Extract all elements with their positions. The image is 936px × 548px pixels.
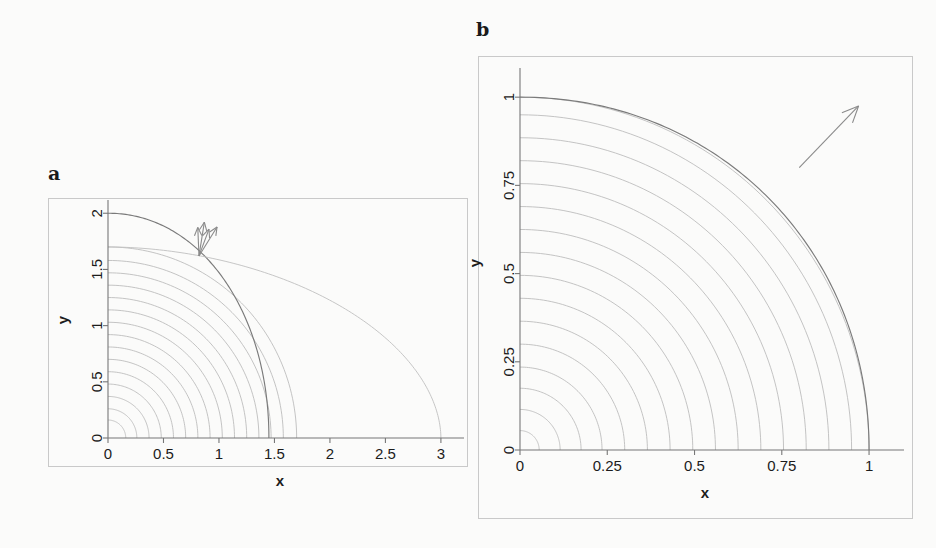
panel-b-axes [515, 68, 904, 455]
panel-a-plot: 00.511.522.5300.511.52 x y [46, 160, 470, 512]
contour-line [520, 298, 670, 450]
y-tick-label: 1.5 [88, 259, 105, 280]
contour-line [520, 207, 761, 450]
contour-line [108, 384, 161, 438]
arrow-head [194, 227, 197, 235]
contour-line [520, 388, 581, 450]
contour-line [108, 420, 126, 438]
arrow-shaft [799, 106, 858, 168]
contour-line [108, 322, 222, 438]
panel-b-frame [479, 57, 913, 519]
constraint-curve [108, 247, 441, 438]
arrow-shaft [198, 227, 199, 256]
contour-line [520, 344, 625, 450]
panel-b: b 00.250.50.75100.250.50.751 x y [470, 18, 918, 526]
panel-a-x-axis-title: x [276, 472, 285, 489]
x-tick-label: 0 [516, 457, 524, 474]
arrow-head [209, 229, 210, 238]
figure-root: a 00.511.522.5300.511.52 x y b 00.250.50… [0, 0, 936, 548]
panel-b-tick-labels: 00.250.50.75100.250.50.751 [500, 93, 873, 474]
x-tick-label: 0.5 [153, 445, 174, 462]
contour-line [520, 431, 539, 450]
contour-line [108, 372, 173, 438]
panel-a-contours [108, 247, 297, 438]
y-tick-label: 0.5 [88, 371, 105, 392]
y-tick-label: 1 [500, 93, 517, 101]
x-tick-label: 2.5 [375, 445, 396, 462]
contour-line [520, 321, 647, 450]
x-tick-label: 1 [215, 445, 223, 462]
x-tick-label: 1 [865, 457, 873, 474]
contour-line [108, 409, 137, 438]
contour-line [108, 298, 247, 438]
panel-a-axes [103, 200, 464, 443]
panel-b-gradient-arrow [799, 106, 858, 168]
x-tick-label: 3 [437, 445, 445, 462]
y-tick-label: 0.75 [500, 171, 517, 200]
contour-line [520, 252, 715, 450]
contour-line [520, 275, 693, 450]
panel-b-letter: b [476, 20, 489, 39]
contour-line [520, 367, 602, 450]
x-tick-label: 0.75 [767, 457, 796, 474]
x-tick-label: 0.5 [684, 457, 705, 474]
panel-a-letter: a [48, 164, 60, 183]
panel-b-y-axis-title: y [470, 258, 483, 267]
y-tick-label: 0 [500, 446, 517, 454]
y-tick-label: 2 [88, 209, 105, 217]
panel-a-frame [49, 199, 468, 467]
contour-line [108, 359, 186, 438]
panel-a-gradient-arrow [194, 222, 217, 256]
arrow-head [204, 222, 206, 231]
y-tick-label: 1 [88, 321, 105, 329]
x-tick-label: 2 [326, 445, 334, 462]
contour-line [108, 285, 259, 438]
panel-b-x-axis-title: x [701, 484, 710, 501]
contour-line [520, 229, 738, 450]
panel-b-plot: 00.250.50.75100.250.50.751 x y [470, 18, 918, 526]
x-tick-label: 0.25 [593, 457, 622, 474]
contour-line [520, 409, 560, 450]
panel-a-tick-labels: 00.511.522.5300.511.52 [88, 209, 445, 462]
panel-a: a 00.511.522.5300.511.52 x y [46, 160, 470, 512]
panel-a-y-axis-title: y [54, 315, 71, 324]
y-tick-label: 0.25 [500, 347, 517, 376]
contour-line [520, 184, 784, 450]
y-tick-label: 0 [88, 434, 105, 442]
x-tick-label: 0 [104, 445, 112, 462]
contour-line [108, 310, 235, 438]
contour-line [108, 273, 271, 438]
panel-a-constraint-curves [108, 213, 441, 438]
y-tick-label: 0.5 [500, 263, 517, 284]
x-tick-label: 1.5 [264, 445, 285, 462]
